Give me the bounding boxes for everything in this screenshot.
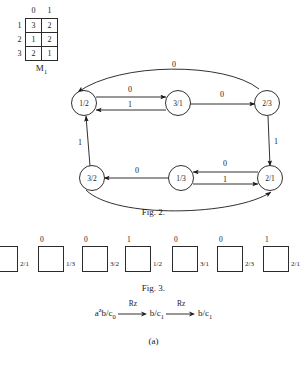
rewrite-formula: azb/c0Rzb/c1Rzb/c1 <box>0 306 307 320</box>
formula-arrow-1: Rz <box>118 310 148 318</box>
tape-cell-top-label-3: 0 <box>84 235 88 244</box>
arrow-1-icon <box>118 310 148 318</box>
tape-cell-2: 0 1/3 <box>38 246 75 272</box>
tape-cell-4: 1 1/2 <box>125 246 162 272</box>
tape-cell-right-label-3: 3/2 <box>110 260 119 268</box>
tape-cell-5: 0 3/1 <box>172 246 209 272</box>
sub-figure-caption-a: (a) <box>0 336 307 346</box>
edge-label-23-21: 1 <box>274 137 278 146</box>
edge-label-31-23: 0 <box>220 90 224 99</box>
edge-label-12-31: 0 <box>128 85 132 94</box>
figure-page: 0 1 1 3 2 2 1 2 3 2 1 M1 <box>0 0 307 389</box>
tape-cell-6: 0 2/3 <box>217 246 254 272</box>
edge-label-13-32: 0 <box>135 166 139 175</box>
tape-cell-box-5[interactable] <box>172 246 198 272</box>
tape-cell-3: 0 3/2 <box>82 246 119 272</box>
tape-cell-box-6[interactable] <box>217 246 243 272</box>
tape-cell-right-label-2: 1/3 <box>66 260 75 268</box>
formula-term3-subscript: 1 <box>209 313 212 320</box>
formula-term-3: b/c1 <box>198 308 212 318</box>
matrix-header-row: 0 1 <box>14 4 58 19</box>
edge-label-top-arc: 0 <box>172 60 176 69</box>
formula-arrow-2: Rz <box>166 310 196 318</box>
tape-cell-right-label-7: 2/1 <box>291 260 300 268</box>
arrow-2-icon <box>166 310 196 318</box>
matrix-row: 1 3 2 <box>14 19 58 33</box>
tape-cell-group: 0 3/1 <box>172 246 209 272</box>
tape-cell-top-label-5: 0 <box>174 235 178 244</box>
tape-cell-group: 0 2/3 <box>217 246 254 272</box>
matrix-cell-r1c1: 2 <box>42 19 58 33</box>
edge-label-21-13: 0 <box>223 159 227 168</box>
tape-cell-top-label-4: 1 <box>127 235 131 244</box>
tape-cell-box-2[interactable] <box>38 246 64 272</box>
node-label-1-2: 1/2 <box>79 99 89 108</box>
edge-23-to-21 <box>268 116 270 166</box>
formula-arrow1-label: Rz <box>129 299 137 308</box>
matrix-row: 2 1 2 <box>14 33 58 47</box>
tape-cell-box-4[interactable] <box>125 246 151 272</box>
formula-term1-subscript: 0 <box>113 313 116 320</box>
edge-23-to-12 <box>78 69 259 92</box>
figure-2-diagram: 1/2 3/1 2/3 3/2 1/3 2/1 0 0 1 0 1 0 1 0 … <box>0 56 307 216</box>
figure-2-caption: Fig. 2. <box>0 207 307 217</box>
tape-cell-box-7[interactable] <box>263 246 289 272</box>
tape-cell-right-label-5: 3/1 <box>200 260 209 268</box>
formula-term3-base: b/c <box>198 308 209 318</box>
node-label-2-1: 2/1 <box>265 174 275 183</box>
edge-label-31-12: 1 <box>128 100 132 109</box>
node-label-3-1: 3/1 <box>173 99 183 108</box>
node-label-1-3: 1/3 <box>176 174 186 183</box>
formula-arrow2-label: Rz <box>177 299 185 308</box>
node-label-2-3: 2/3 <box>262 99 272 108</box>
tape-cell-right-label-1: 2/1 <box>20 260 29 268</box>
matrix-cell-r2c1: 2 <box>42 33 58 47</box>
formula-term1-rest: b/c <box>102 308 113 318</box>
figure-3-tape: 1 2/1 0 1/3 0 3/2 1 1/2 <box>0 236 307 282</box>
tape-cell-right-label-6: 2/3 <box>245 260 254 268</box>
tape-cell-group: 0 1/3 <box>38 246 75 272</box>
edge-label-13-21: 1 <box>223 175 227 184</box>
formula-term2-base: b/c <box>150 308 161 318</box>
tape-cell-top-label-2: 0 <box>40 235 44 244</box>
tape-cell-7: 1 2/1 <box>263 246 300 272</box>
tape-cell-box-3[interactable] <box>82 246 108 272</box>
tape-cell-top-label-6: 0 <box>219 235 223 244</box>
matrix-corner-blank <box>14 4 26 19</box>
tape-cell-1: 1 2/1 <box>0 246 29 272</box>
tape-cell-group: 1 1/2 <box>125 246 162 272</box>
automaton-svg: 1/2 3/1 2/3 3/2 1/3 2/1 0 0 1 0 1 0 1 0 … <box>0 56 307 216</box>
edge-32-to-12 <box>86 116 90 166</box>
formula-term2-subscript: 1 <box>161 313 164 320</box>
figure-3-caption: Fig. 3. <box>0 283 307 293</box>
edge-label-32-12: 1 <box>78 138 82 147</box>
node-label-3-2: 3/2 <box>87 174 97 183</box>
tape-cell-right-label-4: 1/2 <box>153 260 162 268</box>
matrix-cell-r2c0: 1 <box>26 33 42 47</box>
formula-term-2: b/c1 <box>150 308 164 318</box>
matrix-row-header-2: 2 <box>14 33 26 47</box>
tape-cell-top-label-7: 1 <box>265 235 269 244</box>
matrix-col-header-0: 0 <box>26 4 42 19</box>
tape-cell-group: 1 2/1 <box>263 246 300 272</box>
tape-cell-group: 1 2/1 <box>0 246 29 272</box>
tape-cell-group: 0 3/2 <box>82 246 119 272</box>
matrix-cell-r1c0: 3 <box>26 19 42 33</box>
matrix-col-header-1: 1 <box>42 4 58 19</box>
matrix-m1: 0 1 1 3 2 2 1 2 3 2 1 <box>14 4 58 61</box>
formula-term-1: azb/c0 <box>95 308 116 318</box>
tape-cell-box-1[interactable] <box>0 246 18 272</box>
matrix-row-header-1: 1 <box>14 19 26 33</box>
